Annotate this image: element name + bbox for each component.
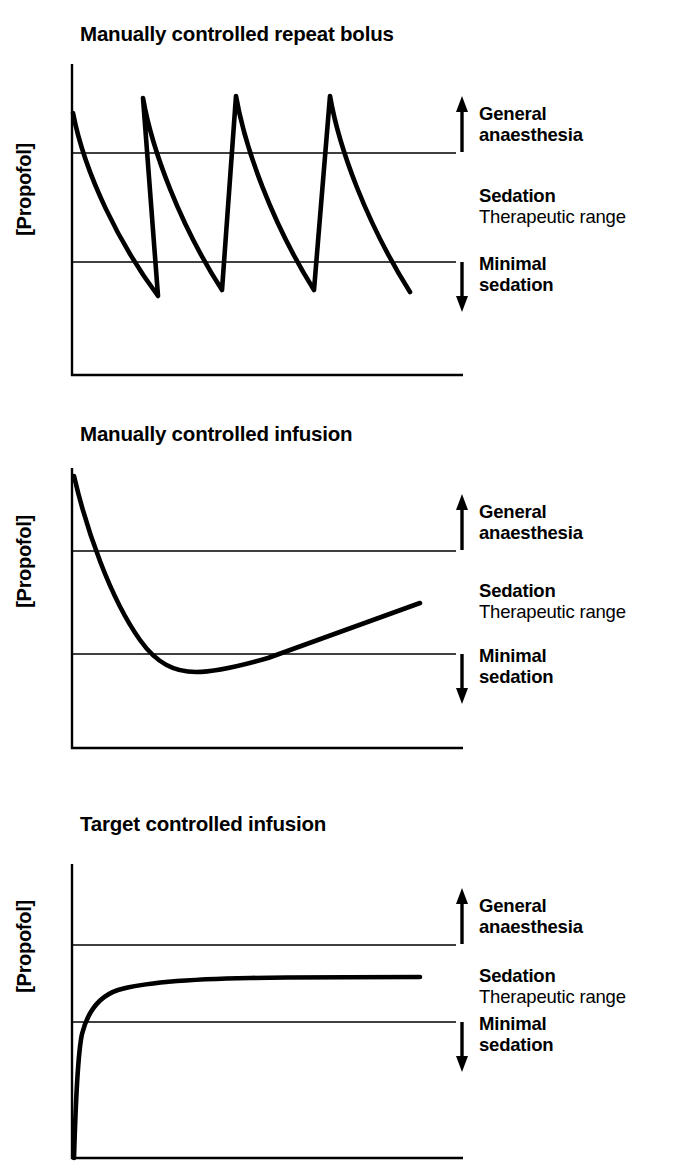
label-general-anaesthesia: General anaesthesia (479, 895, 583, 937)
propofol-concentration-curve (73, 96, 410, 296)
label-minimal-line2: sedation (479, 274, 553, 295)
panel-manually-controlled-infusion: Manually controlled infusion [Propofol] … (0, 400, 689, 790)
label-sedation: Sedation Therapeutic range (479, 965, 626, 1007)
arrow-up-icon (456, 494, 468, 550)
label-general-line1: General (479, 501, 583, 522)
label-sedation-title: Sedation (479, 580, 626, 601)
arrow-up-icon (456, 96, 468, 152)
label-minimal-sedation: Minimal sedation (479, 645, 553, 687)
label-minimal-line2: sedation (479, 666, 553, 687)
propofol-concentration-figure: Manually controlled repeat bolus [Propof… (0, 0, 689, 1166)
propofol-concentration-curve (74, 476, 420, 672)
label-general-line2: anaesthesia (479, 916, 583, 937)
panel-manually-controlled-repeat-bolus: Manually controlled repeat bolus [Propof… (0, 0, 689, 400)
label-therapeutic-range: Therapeutic range (479, 601, 626, 622)
label-sedation: Sedation Therapeutic range (479, 185, 626, 227)
propofol-concentration-curve (74, 977, 420, 1158)
arrow-down-icon (456, 262, 468, 312)
label-sedation-title: Sedation (479, 965, 626, 986)
arrow-down-icon (456, 654, 468, 704)
label-sedation: Sedation Therapeutic range (479, 580, 626, 622)
label-minimal-line1: Minimal (479, 645, 553, 666)
panel-target-controlled-infusion: Target controlled infusion [Propofol] Ge… (0, 790, 689, 1166)
label-minimal-sedation: Minimal sedation (479, 1013, 553, 1055)
label-general-anaesthesia: General anaesthesia (479, 103, 583, 145)
label-therapeutic-range: Therapeutic range (479, 986, 626, 1007)
label-general-line2: anaesthesia (479, 522, 583, 543)
label-minimal-sedation: Minimal sedation (479, 253, 553, 295)
label-general-line2: anaesthesia (479, 124, 583, 145)
label-therapeutic-range: Therapeutic range (479, 206, 626, 227)
arrow-down-icon (456, 1022, 468, 1072)
label-general-line1: General (479, 103, 583, 124)
arrow-up-icon (456, 888, 468, 944)
label-minimal-line2: sedation (479, 1034, 553, 1055)
label-minimal-line1: Minimal (479, 253, 553, 274)
label-minimal-line1: Minimal (479, 1013, 553, 1034)
label-general-anaesthesia: General anaesthesia (479, 501, 583, 543)
label-sedation-title: Sedation (479, 185, 626, 206)
label-general-line1: General (479, 895, 583, 916)
